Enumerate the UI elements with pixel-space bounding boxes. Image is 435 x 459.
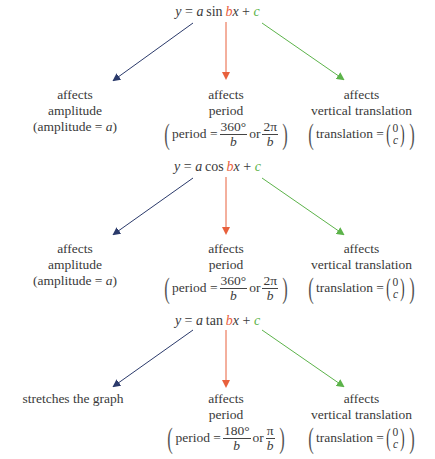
text: (amplitude =	[33, 273, 106, 288]
text: or	[253, 430, 264, 446]
numerator: π	[266, 424, 275, 439]
sin-period-label: affects period ( period = 360°b or 2πb )	[150, 87, 302, 149]
text: )	[113, 119, 118, 134]
func-name: sin	[206, 4, 222, 19]
period-formula: ( period = 360°b or 2πb )	[162, 273, 290, 303]
close-paren: )	[409, 423, 415, 453]
fraction: 360°b	[220, 120, 248, 149]
denominator: b	[230, 135, 237, 149]
open-paren: (	[168, 423, 174, 453]
var-c: c	[254, 4, 260, 19]
denominator: b	[267, 135, 274, 149]
stretch-arrow	[114, 330, 193, 386]
var-a: a	[196, 313, 203, 328]
text: translation =	[316, 126, 384, 142]
sin-arrows	[114, 22, 343, 80]
cos-arrows	[114, 177, 343, 234]
sin-formula: y = a sin bx + c	[0, 4, 435, 20]
column-vector: (0c)	[384, 121, 407, 147]
text: or	[249, 280, 260, 296]
denominator: b	[230, 289, 237, 303]
var-a: a	[106, 273, 113, 288]
open-paren: (	[308, 119, 314, 149]
denominator: b	[267, 289, 274, 303]
label-line: stretches the graph	[3, 391, 143, 407]
translation-arrow	[262, 23, 343, 79]
var-a: a	[195, 159, 202, 174]
translation-arrow	[262, 178, 343, 234]
numerator: 2π	[262, 274, 278, 289]
cos-period-label: affects period ( period = 360°b or 2πb )	[150, 241, 302, 303]
label-line: affects	[288, 391, 435, 407]
numerator: 360°	[220, 274, 248, 289]
close-paren: )	[279, 423, 285, 453]
numerator: 360°	[220, 120, 248, 135]
fraction: 360°b	[220, 274, 248, 303]
text: period =	[175, 430, 220, 446]
text: translation =	[316, 430, 384, 446]
open-paren: (	[164, 273, 170, 303]
fraction: 180°b	[223, 424, 251, 453]
amplitude-arrow	[114, 178, 193, 234]
label-line: amplitude	[5, 103, 145, 119]
var-b: b	[227, 159, 234, 174]
var-c: c	[255, 159, 261, 174]
tan-arrows	[114, 330, 343, 386]
tan-translation-label: affects vertical translation ( translati…	[288, 391, 435, 453]
label-line: affects	[150, 87, 302, 103]
translation-formula: ( translation = (0c) )	[306, 423, 417, 453]
label-line: period	[150, 257, 302, 273]
denominator: b	[267, 439, 274, 453]
denominator: b	[233, 439, 240, 453]
period-formula: ( period = 360°b or 2πb )	[162, 119, 290, 149]
close-paren: )	[409, 119, 415, 149]
numerator: 2π	[262, 120, 278, 135]
translation-formula: ( translation = (0c) )	[306, 119, 417, 149]
sin-translation-label: affects vertical translation ( translati…	[288, 87, 435, 149]
equals: =	[180, 159, 195, 174]
cos-amplitude-label: affects amplitude (amplitude = a)	[5, 241, 145, 289]
label-line: amplitude	[5, 257, 145, 273]
plus: +	[240, 159, 255, 174]
translation-arrow	[262, 330, 343, 386]
label-line: period	[150, 103, 302, 119]
amplitude-arrow	[114, 23, 193, 80]
equals: =	[181, 313, 196, 328]
equals: =	[182, 4, 197, 19]
tan-formula: y = a tan bx + c	[0, 313, 435, 329]
numerator: 180°	[223, 424, 251, 439]
vector-bottom: c	[393, 288, 398, 300]
tan-stretch-label: stretches the graph	[3, 391, 143, 407]
open-paren: (	[308, 423, 314, 453]
label-line: affects	[5, 87, 145, 103]
label-line: (amplitude = a)	[5, 273, 145, 289]
text: or	[249, 126, 260, 142]
open-paren: (	[308, 273, 314, 303]
func-name: cos	[205, 159, 224, 174]
label-line: affects	[5, 241, 145, 257]
plus: +	[239, 4, 254, 19]
var-c: c	[254, 313, 260, 328]
vector-top: 0	[393, 276, 399, 288]
text: period =	[172, 126, 217, 142]
label-line: affects	[150, 241, 302, 257]
vector-bottom: c	[393, 438, 398, 450]
fraction: 2πb	[262, 120, 278, 149]
vector-top: 0	[393, 122, 399, 134]
fraction: πb	[266, 424, 275, 453]
cos-formula: y = a cos bx + c	[0, 159, 435, 175]
open-paren: (	[164, 119, 170, 149]
var-a: a	[106, 119, 113, 134]
sin-amplitude-label: affects amplitude (amplitude = a)	[5, 87, 145, 135]
func-name: tan	[206, 313, 223, 328]
text: (amplitude =	[33, 119, 106, 134]
translation-formula: ( translation = (0c) )	[306, 273, 417, 303]
close-paren: )	[282, 119, 288, 149]
label-line: affects	[288, 87, 435, 103]
text: )	[113, 273, 118, 288]
period-formula: ( period = 180°b or πb )	[165, 423, 286, 453]
label-line: affects	[150, 391, 302, 407]
close-paren: )	[282, 273, 288, 303]
cos-translation-label: affects vertical translation ( translati…	[288, 241, 435, 303]
vector-top: 0	[393, 426, 399, 438]
